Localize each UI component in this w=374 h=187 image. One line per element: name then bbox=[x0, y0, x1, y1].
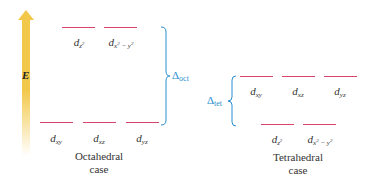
oct-level-dyz bbox=[126, 122, 159, 123]
oct-label-dxy: dxy bbox=[50, 132, 62, 146]
tet-label-dxy: dxy bbox=[250, 85, 262, 99]
oct-level-dx2y2 bbox=[104, 27, 137, 28]
tet-label-dz2: dz2 bbox=[272, 133, 283, 147]
tetrahedral-caption: Tetrahedral case bbox=[273, 151, 323, 177]
tet-level-dxy bbox=[240, 76, 273, 77]
tet-brace-icon bbox=[227, 75, 237, 127]
delta-oct-label: Δoct bbox=[172, 69, 189, 83]
oct-label-dz2: dz2 bbox=[74, 36, 85, 50]
oct-level-dz2 bbox=[62, 27, 95, 28]
oct-label-dyz: dyz bbox=[136, 132, 147, 146]
tet-level-dx2y2 bbox=[303, 124, 336, 125]
tet-label-dx2y2: dx2 − y2 bbox=[308, 133, 333, 147]
oct-label-dxz: dxz bbox=[93, 132, 104, 146]
tet-level-dyz bbox=[324, 76, 357, 77]
oct-level-dxz bbox=[83, 122, 116, 123]
energy-arrow-icon bbox=[14, 6, 38, 156]
energy-axis-label: E bbox=[22, 69, 29, 81]
oct-brace-icon bbox=[160, 26, 172, 126]
tet-level-dxz bbox=[282, 76, 315, 77]
delta-tet-label: Δtet bbox=[207, 94, 222, 108]
octahedral-caption: Octahedral case bbox=[75, 150, 123, 176]
tet-level-dz2 bbox=[261, 124, 294, 125]
tet-label-dyz: dyz bbox=[334, 85, 345, 99]
oct-level-dxy bbox=[40, 122, 73, 123]
tet-label-dxz: dxz bbox=[292, 85, 303, 99]
oct-label-dx2y2: dx2 − y2 bbox=[109, 36, 134, 50]
